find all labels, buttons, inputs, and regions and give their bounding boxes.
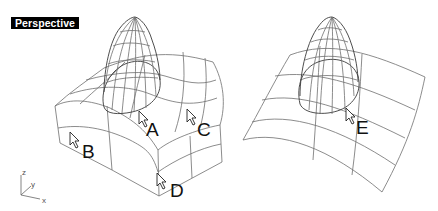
callout-b: B xyxy=(70,132,95,162)
viewport-title-label[interactable]: Perspective xyxy=(11,17,79,29)
callout-label-a: A xyxy=(146,119,159,140)
y-axis-line xyxy=(21,186,31,195)
perspective-viewport[interactable]: A B C D E z y x Perspective xyxy=(0,0,438,211)
arrow-cursor-icon xyxy=(187,109,196,125)
curved-surface-with-dome[interactable] xyxy=(243,17,425,192)
callout-label-e: E xyxy=(356,117,369,138)
x-axis-line xyxy=(21,195,40,199)
callout-label-b: B xyxy=(82,141,95,162)
arrow-cursor-icon xyxy=(346,108,355,124)
arrow-cursor-icon xyxy=(157,173,166,189)
callout-d: D xyxy=(157,173,184,201)
callout-c: C xyxy=(187,109,211,140)
axis-triad: z y x xyxy=(21,168,46,205)
x-axis-label: x xyxy=(42,196,46,205)
callout-a: A xyxy=(139,111,159,140)
y-axis-label: y xyxy=(31,180,35,189)
wireframe-scene[interactable]: A B C D E z y x xyxy=(0,0,438,211)
callout-e: E xyxy=(346,108,369,138)
callout-label-d: D xyxy=(170,180,184,201)
polysurface-with-dome[interactable] xyxy=(55,17,223,196)
z-axis-label: z xyxy=(22,168,26,177)
callout-label-c: C xyxy=(197,119,211,140)
arrow-cursor-icon xyxy=(70,132,79,148)
